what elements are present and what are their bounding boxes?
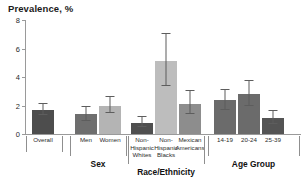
bar [75, 20, 97, 134]
error-bar-cap-upper [138, 116, 147, 117]
y-tick-mark [22, 49, 25, 50]
bar [238, 20, 260, 134]
group-separator [126, 136, 127, 156]
x-tick-label: Overall [22, 136, 64, 144]
y-tick-mark [22, 77, 25, 78]
group-separator [128, 136, 129, 164]
error-bar-cap-lower [138, 126, 147, 127]
error-bar-line [86, 107, 87, 121]
group-separator [62, 136, 63, 152]
y-axis-ticks: 02468 [0, 20, 25, 134]
error-bar-cap-upper [106, 96, 115, 97]
error-bar-line [110, 97, 111, 113]
prevalence-bar-chart: Prevalence, % 02468 OverallMenWomenNon- … [0, 0, 308, 191]
error-bar-cap-lower [82, 120, 91, 121]
error-bar-cap-upper [162, 33, 171, 34]
x-axis-baseline [25, 134, 301, 135]
group-label-age-group: Age Group [208, 159, 299, 169]
error-bar-line [190, 91, 191, 114]
bar [262, 20, 284, 134]
y-axis-title: Prevalence, % [8, 3, 73, 14]
error-bar-cap-lower [39, 114, 48, 115]
bar [99, 20, 121, 134]
error-bar-line [249, 81, 250, 105]
error-bar-cap-upper [221, 89, 230, 90]
error-bar-cap-lower [221, 109, 230, 110]
error-bar-cap-lower [186, 113, 195, 114]
error-bar-line [225, 90, 226, 110]
x-tick-label: 25-39 [252, 136, 294, 144]
y-tick-label: 4 [16, 73, 20, 82]
error-bar-cap-lower [269, 123, 278, 124]
bar [155, 20, 177, 134]
group-separator [208, 136, 209, 156]
group-label-sex: Sex [70, 159, 126, 169]
group-separator [26, 136, 27, 152]
error-bar-cap-upper [269, 110, 278, 111]
error-bar-cap-upper [82, 106, 91, 107]
group-label-race-ethnicity: Race/Ethnicity [128, 167, 204, 177]
error-bar-cap-upper [245, 80, 254, 81]
bar [214, 20, 236, 134]
y-tick-label: 8 [16, 16, 20, 25]
group-separator [204, 136, 205, 164]
y-tick-label: 0 [16, 130, 20, 139]
y-tick-label: 2 [16, 101, 20, 110]
y-tick-mark [22, 20, 25, 21]
group-separator [70, 136, 71, 156]
group-separator [299, 136, 300, 156]
bar [179, 20, 201, 134]
error-bar-line [166, 34, 167, 85]
error-bar-cap-upper [39, 103, 48, 104]
bar [32, 20, 54, 134]
y-tick-label: 6 [16, 44, 20, 53]
error-bar-cap-upper [186, 90, 195, 91]
bar [131, 20, 153, 134]
error-bar-cap-lower [106, 112, 115, 113]
error-bar-cap-lower [162, 85, 171, 86]
error-bar-cap-lower [245, 105, 254, 106]
plot-area [26, 20, 300, 134]
y-tick-mark [22, 106, 25, 107]
